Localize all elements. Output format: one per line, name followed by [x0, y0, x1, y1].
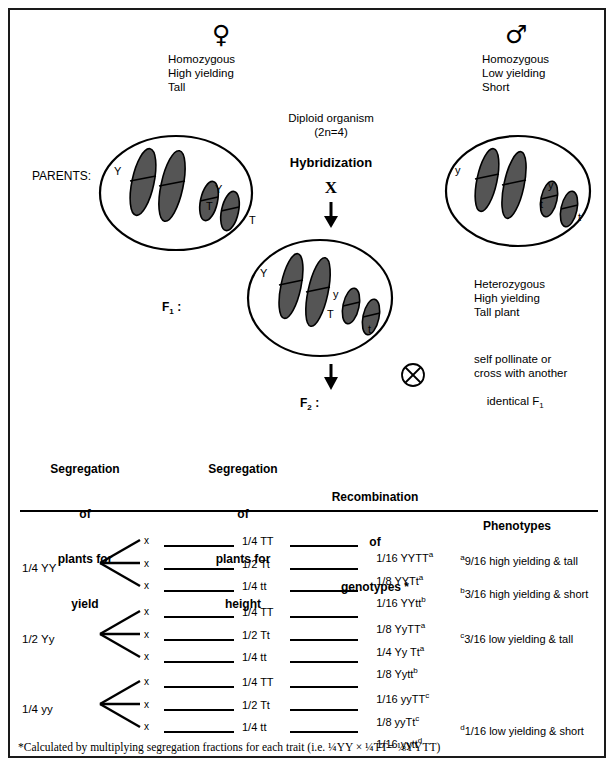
- right-cell-label-y1: y: [455, 163, 461, 177]
- group-2-branch-2-x: x: [144, 629, 149, 640]
- self-cross-circle-x-icon: [400, 362, 426, 388]
- group-1-height-2: 1/2 Tt: [242, 558, 270, 571]
- f1-cell-label-Y: Y: [260, 266, 267, 280]
- left-parent-desc-line-3: Tall: [168, 80, 185, 94]
- group-3-branch-1-x: x: [144, 676, 149, 687]
- arrow-down-to-f1-icon: [320, 202, 342, 228]
- group-1-yield-label: 1/4 YY: [22, 562, 56, 575]
- group-3-branch-bracket-icon: [96, 679, 142, 729]
- table-header-rule: [20, 510, 598, 512]
- group-3-height-1: 1/4 TT: [242, 676, 274, 689]
- right-parent-desc-line-3: Short: [482, 80, 510, 94]
- footnote-calculation: *Calculated by multiplying segregation f…: [18, 741, 440, 753]
- phenotype-b-text: 3/16 high yielding & short: [465, 588, 589, 600]
- right-cell-label-t2: t: [578, 210, 581, 224]
- diploid-organism-label: Diploid organism: [256, 111, 406, 125]
- header-yield-line-1: Segregation: [20, 462, 150, 477]
- group-2-dash2-3: [290, 661, 358, 663]
- f1-generation-label: F1 :: [162, 300, 181, 316]
- f1-cell-label-T: T: [327, 307, 334, 321]
- group-2-branch-3-x: x: [144, 651, 149, 662]
- group-2-dash-2: [164, 639, 234, 641]
- group-1-branch-bracket-icon: [96, 538, 142, 588]
- group-3-dash-2: [164, 709, 234, 711]
- group-1-height-1: 1/4 TT: [242, 535, 274, 548]
- genetics-dihybrid-cross-diagram: ♀ Homozygous High yielding Tall ♂ Homozy…: [0, 0, 616, 779]
- self-pollinate-f1-subscript: 1: [539, 401, 543, 410]
- group-1-branch-1-x: x: [144, 535, 149, 546]
- right-cell-label-y2: y: [548, 178, 554, 192]
- f1-cell-label-t: t: [368, 322, 371, 336]
- right-parent-desc-line-1: Homozygous: [482, 52, 549, 66]
- group-2-yield-label: 1/2 Yy: [22, 633, 54, 646]
- left-parent-cell: [96, 132, 256, 254]
- phenotype-row-d: d1/16 low yielding & short: [448, 708, 584, 751]
- f2-generation-label: F2 :: [300, 396, 319, 412]
- phenotype-d-text: 1/16 low yielding & short: [465, 725, 584, 737]
- group-1-dash2-1: [290, 545, 358, 547]
- group-1-branch-2-x: x: [144, 558, 149, 569]
- group-3-dash-1: [164, 686, 234, 688]
- group-2-branch-bracket-icon: [96, 609, 142, 659]
- group-2-dash2-1: [290, 616, 358, 618]
- hybridization-label: Hybridization: [256, 156, 406, 170]
- group-1-dash2-3: [290, 590, 358, 592]
- group-2-genotype-3-sup: b: [413, 666, 417, 675]
- header-genotypes-line-1: Recombination: [300, 490, 450, 505]
- female-symbol: ♀: [212, 22, 230, 47]
- group-3-dash2-3: [290, 731, 358, 733]
- group-3-dash2-1: [290, 686, 358, 688]
- cross-mark-x: X: [256, 178, 406, 198]
- group-1-genotype-1-sup: a: [429, 550, 433, 559]
- group-1-dash-2: [164, 568, 234, 570]
- right-parent-cell: [442, 132, 594, 250]
- group-2-height-1: 1/4 TT: [242, 606, 274, 619]
- f1-desc-line-1: Heterozygous: [474, 277, 545, 291]
- left-parent-desc-line-1: Homozygous: [168, 52, 235, 66]
- phenotype-c-text: 3/16 low yielding & tall: [464, 633, 573, 645]
- group-3-height-2: 1/2 Tt: [242, 699, 270, 712]
- left-cell-label-Y2: Y: [215, 182, 222, 196]
- left-cell-label-T2: T: [249, 213, 256, 227]
- group-3-branch-3-x: x: [144, 721, 149, 732]
- right-cell-label-t1: t: [540, 197, 543, 211]
- left-cell-label-Y1: Y: [114, 164, 121, 178]
- group-2-branch-1-x: x: [144, 606, 149, 617]
- header-phenotypes-line-1: Phenotypes: [452, 519, 582, 534]
- group-1-genotype-3-sup: b: [421, 595, 425, 604]
- self-pollinate-line-3: identical F1: [474, 380, 544, 427]
- group-2-dash2-2: [290, 639, 358, 641]
- group-3-dash-3: [164, 731, 234, 733]
- group-2-height-2: 1/2 Tt: [242, 629, 270, 642]
- f1-colon: :: [174, 300, 181, 314]
- group-3-genotype-1-sup: c: [425, 691, 429, 700]
- group-3-branch-2-x: x: [144, 699, 149, 710]
- diploid-chromosome-number: (2n=4): [256, 125, 406, 139]
- group-1-dash-1: [164, 545, 234, 547]
- self-pollinate-line-2: cross with another: [474, 366, 567, 380]
- group-3-height-3: 1/4 tt: [242, 721, 266, 734]
- group-2-dash-1: [164, 616, 234, 618]
- f2-colon: :: [312, 396, 319, 410]
- group-1-dash-3: [164, 590, 234, 592]
- self-pollinate-line-1: self pollinate or: [474, 352, 551, 366]
- group-3-yield-label: 1/4 yy: [22, 703, 53, 716]
- group-2-height-3: 1/4 tt: [242, 651, 266, 664]
- group-1-height-3: 1/4 tt: [242, 580, 266, 593]
- phenotype-row-c: c3/16 low yielding & tall: [448, 616, 573, 659]
- header-height-line-1: Segregation: [178, 462, 308, 477]
- group-2-genotype-2-sup: a: [420, 644, 424, 653]
- group-1-branch-3-x: x: [144, 580, 149, 591]
- parents-label: PARENTS:: [32, 169, 91, 183]
- left-cell-label-T1: T: [206, 199, 213, 213]
- group-1-dash2-2: [290, 568, 358, 570]
- phenotype-row-b: b3/16 high yielding & short: [448, 571, 588, 614]
- self-pollinate-text-3: identical F: [487, 395, 539, 407]
- arrow-down-to-f2-icon: [320, 364, 342, 390]
- f1-desc-line-2: High yielding: [474, 291, 540, 305]
- male-symbol: ♂: [505, 22, 527, 47]
- f1-desc-line-3: Tall plant: [474, 305, 519, 319]
- group-3-dash2-2: [290, 709, 358, 711]
- group-2-dash-3: [164, 661, 234, 663]
- phenotype-a-text: 9/16 high yielding & tall: [465, 555, 578, 567]
